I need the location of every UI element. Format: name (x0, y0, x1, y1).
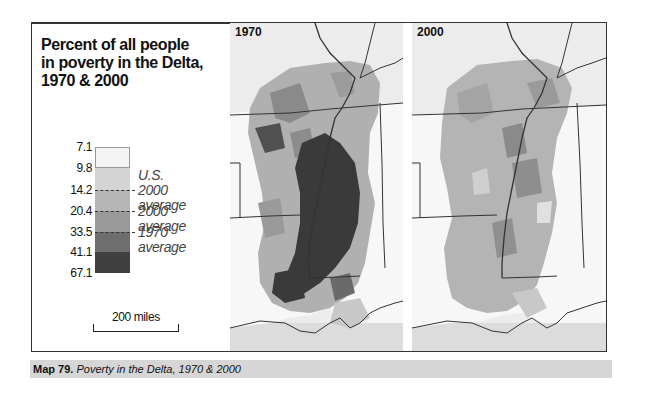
legend-tick: 14.2 (52, 184, 92, 196)
title-line-2: in poverty in the Delta, (41, 54, 203, 72)
2000-average-line (95, 211, 135, 212)
legend-class-3 (95, 190, 130, 211)
legend-class-5 (95, 232, 130, 252)
legend-tick: 9.8 (52, 162, 92, 174)
legend-tick: 20.4 (52, 205, 92, 217)
title-line-3: 1970 & 2000 (41, 72, 203, 90)
map-1970-graphic (230, 23, 403, 351)
legend-tick: 67.1 (52, 267, 92, 279)
map-1970: 1970 (230, 23, 403, 351)
legend-class-6 (95, 252, 130, 273)
map-year-label: 1970 (235, 25, 262, 39)
map-divider (403, 23, 412, 351)
figure-caption: Map 79. Poverty in the Delta, 1970 & 200… (30, 360, 612, 378)
1970-average-line (95, 232, 135, 233)
legend-tick: 41.1 (52, 246, 92, 258)
1970-average-label: 1970 average (138, 225, 186, 255)
legend-tick: 7.1 (52, 141, 92, 153)
caption-text: Poverty in the Delta, 1970 & 2000 (76, 363, 241, 375)
map-2000-graphic (412, 23, 606, 351)
title-line-1: Percent of all people (41, 36, 203, 54)
legend-class-2 (95, 168, 130, 190)
legend-tick: 33.5 (52, 226, 92, 238)
caption-number: Map 79. (30, 363, 73, 375)
us-2000-average-line (95, 190, 135, 191)
legend-class-4 (95, 211, 130, 232)
scale-bar-label: 200 miles (112, 310, 160, 324)
map-2000: 2000 (412, 23, 606, 351)
figure-title: Percent of all people in poverty in the … (41, 36, 203, 90)
scale-bar (93, 324, 179, 332)
legend-class-1 (95, 147, 130, 168)
map-year-label: 2000 (417, 25, 444, 39)
